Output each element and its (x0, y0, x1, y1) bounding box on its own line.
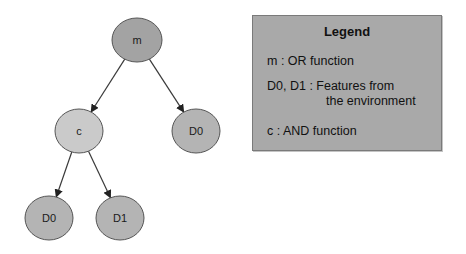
legend-description-continued: the environment (267, 94, 416, 108)
node-label: D0 (189, 125, 203, 137)
legend-description: Features from (316, 79, 394, 93)
node-m: m (112, 18, 162, 62)
legend-entry-d0-d1: D0, D1 : Features from the environment (267, 79, 416, 108)
legend-separator: : (306, 79, 316, 93)
diagram-canvas: mcD0D0D1 Legend m : OR function D0, D1 :… (0, 0, 466, 254)
legend-description: OR function (288, 54, 354, 68)
edge-m-to-c (91, 59, 125, 112)
edge-c-to-d1 (89, 151, 111, 198)
node-label: D1 (113, 212, 127, 224)
legend-title: Legend (253, 24, 441, 39)
legend-key: m (267, 54, 277, 68)
node-d1: D1 (96, 196, 144, 240)
legend-key: D0, D1 (267, 79, 306, 93)
tree-nodes: mcD0D0D1 (25, 18, 220, 240)
legend-entry-m: m : OR function (267, 54, 354, 68)
node-d0_left: D0 (25, 196, 73, 240)
node-label: D0 (42, 212, 56, 224)
legend-separator: : (277, 54, 287, 68)
node-c: c (55, 109, 103, 153)
node-d0_right: D0 (172, 109, 220, 153)
edge-m-to-d0_right (149, 59, 183, 112)
legend-box: Legend m : OR function D0, D1 : Features… (252, 15, 442, 151)
legend-description: AND function (283, 124, 357, 138)
node-label: c (76, 125, 82, 137)
legend-entry-c: c : AND function (267, 124, 357, 138)
legend-separator: : (273, 124, 283, 138)
edge-c-to-d0_left (56, 152, 72, 197)
node-label: m (132, 34, 141, 46)
